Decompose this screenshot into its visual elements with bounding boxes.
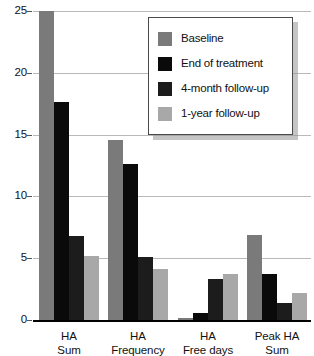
- axis-baseline: [33, 320, 311, 322]
- legend-swatch-icon: [158, 32, 172, 46]
- x-axis-label-line: Sum: [232, 344, 314, 356]
- y-axis: 0510152025: [0, 0, 27, 356]
- legend-swatch-icon: [158, 82, 172, 96]
- y-tick-label: 20: [15, 67, 27, 79]
- bar-chart: 0510152025 HASumHAFrequencyHAFree daysPe…: [0, 0, 314, 356]
- x-axis-label: Peak HASum: [232, 330, 314, 356]
- bar: [108, 140, 123, 320]
- bar: [138, 257, 153, 320]
- bar: [247, 235, 262, 320]
- y-tick-label: 15: [15, 129, 27, 141]
- y-tick-mark: [27, 135, 32, 136]
- bar: [208, 279, 223, 320]
- bar: [39, 11, 54, 320]
- bar: [277, 303, 292, 320]
- bar-group: [39, 11, 99, 320]
- bar: [262, 274, 277, 320]
- legend-swatch-icon: [158, 107, 172, 121]
- bar: [223, 274, 238, 320]
- bar: [54, 102, 69, 320]
- bar: [292, 293, 307, 320]
- legend-item[interactable]: End of treatment: [158, 51, 284, 76]
- legend-label: Baseline: [181, 33, 224, 45]
- legend-item[interactable]: Baseline: [158, 26, 284, 51]
- legend-item[interactable]: 4-month follow-up: [158, 76, 284, 101]
- bar: [193, 313, 208, 320]
- legend-label: End of treatment: [181, 58, 263, 70]
- bar: [69, 236, 84, 320]
- legend-label: 4-month follow-up: [181, 83, 269, 95]
- y-tick-mark: [27, 73, 32, 74]
- bar: [84, 256, 99, 320]
- bar: [153, 269, 168, 320]
- y-tick-label: 10: [15, 190, 27, 202]
- legend-item[interactable]: 1-year follow-up: [158, 101, 284, 126]
- y-tick-mark: [27, 11, 32, 12]
- y-tick-mark: [27, 196, 32, 197]
- legend-label: 1-year follow-up: [181, 108, 260, 120]
- legend-swatch-icon: [158, 57, 172, 71]
- y-tick-mark: [27, 258, 32, 259]
- y-tick-mark: [27, 320, 32, 321]
- y-tick-label: 25: [15, 5, 27, 17]
- x-axis: HASumHAFrequencyHAFree daysPeak HASum: [33, 326, 311, 356]
- x-axis-label-line: Peak HA: [232, 330, 314, 344]
- bar: [178, 318, 193, 320]
- legend: BaselineEnd of treatment4-month follow-u…: [148, 17, 293, 135]
- bar: [123, 164, 138, 320]
